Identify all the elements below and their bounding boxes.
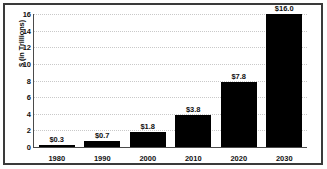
y-tick-label: 16 <box>23 10 31 19</box>
y-tick-label: 8 <box>27 76 31 85</box>
x-tick-label: 2000 <box>139 154 156 163</box>
x-tick-label: 1980 <box>48 154 65 163</box>
plot-area: 0246810121416 $0.3$0.7$1.8$3.8$7.8$16.0 … <box>33 14 307 148</box>
bar-value-label: $0.7 <box>95 131 110 140</box>
bar-value-label: $0.3 <box>49 135 64 144</box>
bar <box>175 115 211 147</box>
y-tick-label: 14 <box>23 26 31 35</box>
bar <box>39 145 75 147</box>
chart-outer-frame: $ (in Trillions) 0246810121416 $0.3$0.7$… <box>3 3 323 165</box>
bar <box>84 141 120 147</box>
y-tick-label: 12 <box>23 43 31 52</box>
bar-value-label: $3.8 <box>186 105 201 114</box>
y-tick-label: 4 <box>27 109 31 118</box>
y-tick-label: 2 <box>27 126 31 135</box>
x-tick-label: 2030 <box>276 154 293 163</box>
x-tick-label: 2010 <box>185 154 202 163</box>
y-tick-label: 0 <box>27 143 31 152</box>
bar-value-label: $16.0 <box>275 4 294 13</box>
x-tick-label: 2020 <box>230 154 247 163</box>
bar <box>266 14 302 147</box>
y-tick-label: 10 <box>23 59 31 68</box>
y-tick-label: 6 <box>27 93 31 102</box>
bar <box>130 132 166 147</box>
bar-value-label: $1.8 <box>140 122 155 131</box>
bar <box>221 82 257 147</box>
x-tick-label: 1990 <box>94 154 111 163</box>
chart-figure: $ (in Trillions) 0246810121416 $0.3$0.7$… <box>0 0 327 169</box>
bar-value-label: $7.8 <box>231 72 246 81</box>
